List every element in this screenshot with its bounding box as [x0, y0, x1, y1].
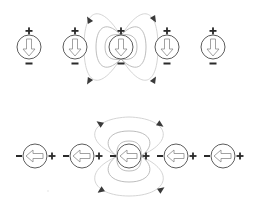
plus-sign-icon [74, 27, 76, 34]
minus-sign-icon [110, 155, 116, 157]
plus-sign-icon [239, 153, 241, 160]
dipole-vertical [155, 27, 179, 64]
arrowhead-icon [95, 119, 104, 128]
dipole-horizontal-center [110, 144, 150, 168]
minus-sign-icon [26, 63, 33, 65]
artifact-dot [47, 190, 49, 192]
plus-sign-icon [212, 27, 214, 34]
arrowhead-icon [150, 75, 159, 84]
plus-sign-icon [145, 153, 147, 160]
dipole-vertical [63, 27, 87, 64]
arrowhead-icon [157, 185, 166, 194]
dipole-alignment-diagram [0, 0, 259, 205]
plus-sign-icon [28, 27, 30, 34]
top-row-dipoles [17, 27, 225, 64]
dipole-vertical [17, 27, 41, 64]
minus-sign-icon [72, 63, 79, 65]
minus-sign-icon [164, 63, 171, 65]
arrowhead-icon [96, 186, 105, 195]
minus-sign-icon [63, 155, 69, 157]
minus-sign-icon [204, 155, 210, 157]
dipole-horizontal [204, 144, 244, 168]
minus-sign-icon [157, 155, 163, 157]
dipole-horizontal [63, 144, 103, 168]
dipole-horizontal [157, 144, 197, 168]
minus-sign-icon [16, 155, 22, 157]
dipole-vertical [201, 27, 225, 64]
plus-sign-icon [166, 27, 168, 34]
minus-sign-icon [210, 63, 217, 65]
plus-sign-icon [192, 153, 194, 160]
bottom-row-dipoles [16, 144, 244, 168]
dipole-horizontal [16, 144, 56, 168]
diagram-canvas [0, 0, 259, 205]
minus-sign-icon [118, 63, 125, 65]
arrowhead-icon [84, 15, 93, 24]
plus-sign-icon [120, 27, 122, 34]
plus-sign-icon [98, 153, 100, 160]
plus-sign-icon [51, 153, 53, 160]
